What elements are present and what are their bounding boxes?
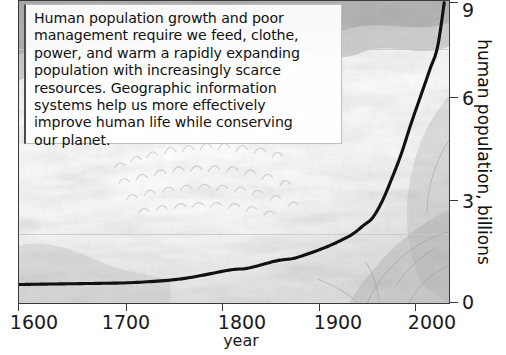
x-tick-label-1700: 1700 [102,311,150,333]
y-tick-label-6: 6 [462,87,474,109]
annotation-panel: Human population growth and poor managem… [24,4,342,144]
y-tick-0 [450,302,458,303]
x-tick-2000 [415,304,416,311]
y-tick-label-0: 0 [462,291,474,313]
x-tick-label-1900: 1900 [314,311,362,333]
y-axis-title: human population, billions [474,39,494,265]
x-tick-label-1600: 1600 [10,311,58,333]
x-tick-1900 [319,304,320,311]
y-tick-6 [450,97,458,98]
x-tick-label-2000: 2000 [408,311,456,333]
annotation-text: Human population growth and poor managem… [34,10,335,149]
x-axis-title: year [223,331,259,350]
y-tick-3 [450,200,458,201]
x-tick-label-1800: 1800 [218,311,266,333]
y-tick-9 [450,2,458,3]
figure-root: Human population growth and poor managem… [0,0,506,355]
y-tick-label-3: 3 [462,190,474,212]
x-tick-1700 [126,304,127,311]
y-tick-label-9: 9 [462,0,474,21]
x-tick-1800 [222,304,223,311]
x-tick-1600 [18,304,19,311]
